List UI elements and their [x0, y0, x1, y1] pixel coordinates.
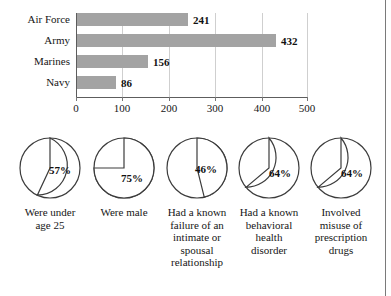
pie-caption-3-line3: intimate or [159, 231, 235, 244]
xtick-mark-100 [122, 97, 123, 101]
pie-caption-1-line2: age 25 [12, 219, 88, 232]
xtick-label-300: 300 [207, 103, 224, 114]
bar-value-marines: 156 [153, 57, 170, 68]
pie-caption-4: Had a known behavioral health disorder [231, 206, 307, 256]
bar-value-navy: 86 [121, 78, 132, 89]
pie-caption-5-line1: Involved [303, 206, 379, 219]
pie-graphic-2: 75% [92, 136, 156, 200]
pie-chart-row: 57% Were under age 25 75% Were male [0, 136, 391, 296]
bar-category-label-marines: Marines [0, 56, 70, 67]
bar-chart: Air Force Army Marines Navy 241 432 156 … [0, 4, 380, 124]
bar-value-air-force: 241 [193, 15, 210, 26]
pie-chart-prescription-drug-misuse: 64% Involved misuse of prescription drug… [303, 136, 379, 256]
bar-category-label-navy: Navy [0, 77, 70, 88]
gridline-300 [215, 13, 216, 97]
pie-svg-2 [92, 136, 156, 200]
pie-caption-4-line2: behavioral [231, 219, 307, 232]
pie-graphic-3: 46% [165, 136, 229, 200]
gridline-400 [262, 13, 263, 97]
pie-label-4: 64% [269, 168, 291, 179]
xtick-label-400: 400 [254, 103, 271, 114]
pie-caption-3: Had a known failure of an intimate or sp… [159, 206, 235, 269]
pie-graphic-1: 57% [18, 136, 82, 200]
pie-chart-intimate-relationship-failure: 46% Had a known failure of an intimate o… [159, 136, 235, 269]
bar-army [76, 34, 276, 47]
pie-caption-5-line2: misuse of [303, 219, 379, 232]
pie-caption-4-line1: Had a known [231, 206, 307, 219]
xtick-label-500: 500 [299, 103, 316, 114]
bar-plot-area: 241 432 156 86 [76, 13, 308, 97]
pie-caption-1: Were under age 25 [12, 206, 88, 231]
pie-caption-4-line4: disorder [231, 244, 307, 257]
bar-marines [76, 55, 148, 68]
pie-caption-1-line1: Were under [12, 206, 88, 219]
bar-air-force [76, 13, 188, 26]
pie-label-2: 75% [121, 173, 143, 184]
figure-root: Air Force Army Marines Navy 241 432 156 … [0, 0, 391, 296]
pie-chart-were-male: 75% Were male [86, 136, 162, 219]
xtick-mark-400 [262, 97, 263, 101]
bar-category-label-air-force: Air Force [0, 14, 70, 25]
pie-chart-under-age-25: 57% Were under age 25 [12, 136, 88, 231]
pie-caption-5-line3: prescription [303, 231, 379, 244]
pie-caption-4-line3: health [231, 231, 307, 244]
bar-value-army: 432 [281, 36, 298, 47]
pie-label-1: 57% [49, 165, 71, 176]
pie-label-3: 46% [195, 164, 217, 175]
pie-label-5: 64% [341, 168, 363, 179]
pie-caption-3-line1: Had a known [159, 206, 235, 219]
pie-graphic-4: 64% [237, 136, 301, 200]
pie-caption-5: Involved misuse of prescription drugs [303, 206, 379, 256]
xtick-mark-500 [307, 97, 308, 101]
pie-caption-3-line4: spousal [159, 244, 235, 257]
xtick-label-200: 200 [161, 103, 178, 114]
pie-caption-3-line2: failure of an [159, 219, 235, 232]
bar-y-axis-line [76, 13, 77, 98]
xtick-mark-300 [215, 97, 216, 101]
gridline-500 [307, 13, 308, 97]
bar-x-axis-line [76, 97, 308, 98]
pie-chart-behavioral-health-disorder: 64% Had a known behavioral health disord… [231, 136, 307, 256]
bar-navy [76, 76, 116, 89]
bar-category-axis: Air Force Army Marines Navy [0, 13, 70, 97]
bar-category-label-army: Army [0, 35, 70, 46]
xtick-label-100: 100 [114, 103, 131, 114]
xtick-mark-0 [76, 97, 77, 101]
pie-caption-5-line4: drugs [303, 244, 379, 257]
pie-caption-3-line5: relationship [159, 256, 235, 269]
xtick-mark-200 [169, 97, 170, 101]
xtick-label-0: 0 [73, 103, 79, 114]
pie-graphic-5: 64% [309, 136, 373, 200]
pie-caption-2: Were male [86, 206, 162, 219]
pie-caption-2-line1: Were male [86, 206, 162, 219]
